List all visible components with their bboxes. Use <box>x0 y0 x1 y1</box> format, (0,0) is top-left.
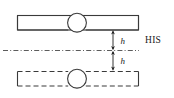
upper-h-label: h <box>121 36 126 46</box>
upper-bar-group <box>18 13 139 32</box>
his-label: HIS <box>145 35 161 45</box>
lower-h-label: h <box>121 56 126 66</box>
figure-container: h h HIS <box>0 0 174 98</box>
lower-bar-group <box>18 69 139 88</box>
diagram-canvas: h h HIS <box>0 0 174 98</box>
upper-circular-joint <box>68 13 87 32</box>
lower-dimension-arrow: h <box>111 51 125 71</box>
lower-circular-joint <box>68 69 87 88</box>
upper-dimension-arrow: h <box>111 30 125 50</box>
